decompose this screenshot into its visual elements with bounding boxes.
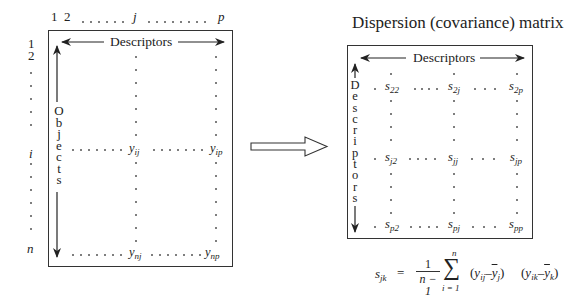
formula-lhs: sjk [375, 266, 387, 283]
covariance-formula: sjk = 1 n − 1 n ∑ i = 1 (yij–yj) (yik–yk… [375, 254, 565, 300]
hollow-right-arrow-icon [251, 137, 327, 156]
formula-fraction: 1 n − 1 [416, 258, 440, 297]
sum-lower-limit: i = 1 [442, 283, 460, 293]
summation-icon: ∑ [443, 255, 460, 279]
formula-term-1: (yij–yj) [470, 265, 504, 282]
formula-equals: = [397, 265, 404, 281]
formula-term-2: (yik–yk) [521, 265, 558, 282]
